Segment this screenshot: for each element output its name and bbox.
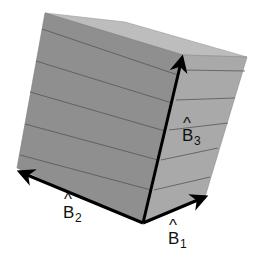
- label-b2-base: B: [63, 203, 74, 222]
- label-b3-subscript: 3: [194, 134, 201, 148]
- label-b1-subscript: 1: [180, 237, 187, 251]
- label-b2-subscript: 2: [75, 211, 82, 225]
- label-b3-base: B: [182, 126, 193, 145]
- box-diagram: ^ B 3 ^ B 2 ^ B 1: [0, 0, 262, 257]
- label-b1-base: B: [168, 229, 179, 248]
- label-b1: ^ B 1: [168, 216, 187, 251]
